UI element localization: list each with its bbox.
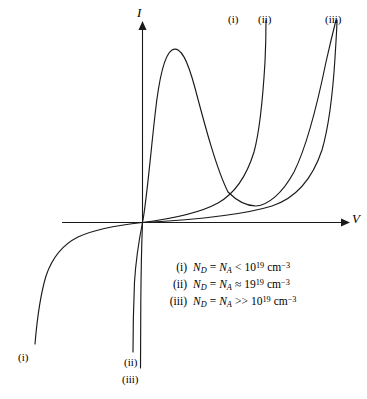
legend-tag-i: (i) [163,261,187,273]
legend-iii-unit: cm [274,295,288,307]
curve-tag-bottom-ii: (ii) [124,357,137,368]
legend-ii-equals: = [210,278,217,290]
curve-iii-reverse-branch [141,223,143,369]
curve-i [143,20,337,223]
voltage-axis-label: V [352,212,360,225]
legend-i-mantissa: 10 [244,261,256,273]
legend-i-rhs-var: N [219,261,227,273]
legend-ii-unit-exponent: −3 [281,278,290,287]
voltage-axis-arrowhead [341,219,350,227]
curve-tag-top-iii: (iii) [325,14,342,25]
curve-i-reverse-branch [35,223,143,345]
legend-i-lhs-var: N [193,261,201,273]
legend-ii-unit: cm [267,278,281,290]
legend-expression-iii: ND=NA>>1019cm−3 [193,295,297,309]
current-axis-arrowhead [139,21,147,30]
legend-row-ii: (ii) ND=NA≈1919cm−3 [163,278,297,292]
legend-row-i: (i) ND=NA<1019cm−3 [163,261,297,275]
legend-iii-lhs-var: N [193,295,201,307]
legend-i-relation: < [235,261,242,273]
legend-iii-unit-exponent: −3 [288,295,297,304]
legend-ii-lhs-sub: D [201,283,207,292]
legend-tag-ii: (ii) [163,278,187,290]
legend-i-unit: cm [267,261,281,273]
legend-i-equals: = [210,261,217,273]
current-axis-label: I [137,6,141,19]
legend-i-exponent: 19 [256,261,264,270]
legend-iii-lhs-sub: D [201,300,207,309]
legend-expression-i: ND=NA<1019cm−3 [193,261,290,275]
curve-tag-top-ii: (ii) [258,14,271,25]
legend-i-lhs-sub: D [201,266,207,275]
legend-iii-rhs-var: N [219,295,227,307]
legend-ii-rhs-sub: A [227,283,232,292]
legend-iii-relation: >> [235,295,248,307]
plot-canvas [0,0,367,399]
legend-iii-rhs-sub: A [227,300,232,309]
legend-iii-mantissa: 10 [251,295,263,307]
iv-characteristic-figure: I V (i) (ii) (iii) (i) (ii) (iii) (i) ND… [0,0,367,399]
curve-tag-bottom-iii: (iii) [122,374,139,385]
legend-ii-lhs-var: N [193,278,201,290]
legend-ii-exponent: 19 [256,278,264,287]
axes-group [62,28,341,223]
legend-ii-mantissa: 19 [244,278,256,290]
legend-ii-relation: ≈ [235,278,241,290]
legend-iii-exponent: 19 [262,295,270,304]
legend-iii-equals: = [210,295,217,307]
legend-tag-iii: (iii) [163,295,187,307]
legend-i-rhs-sub: A [227,266,232,275]
legend: (i) ND=NA<1019cm−3 (ii) ND=NA≈1919cm−3 (… [163,261,297,311]
curve-tag-bottom-i: (i) [18,352,28,363]
curve-tag-top-i: (i) [228,14,238,25]
legend-expression-ii: ND=NA≈1919cm−3 [193,278,290,292]
legend-i-unit-exponent: −3 [281,261,290,270]
legend-row-iii: (iii) ND=NA>>1019cm−3 [163,295,297,309]
legend-ii-rhs-var: N [219,278,227,290]
